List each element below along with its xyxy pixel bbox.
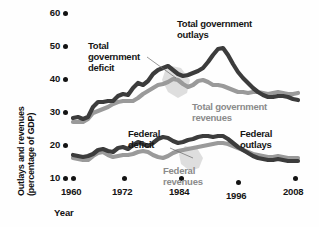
annotation-federal-revenues: Federal revenues	[163, 165, 203, 187]
annotation-total-government-deficit: Total government deficit	[88, 40, 140, 73]
annotation-total-government-revenues: Total government revenues	[192, 101, 267, 123]
y-tick-dot-10	[63, 176, 68, 181]
annotation-federal-outlays: Federal outlays	[240, 128, 272, 150]
x-tick-dot-2008	[293, 176, 298, 181]
x-tick-label-1996: 1996	[226, 190, 246, 201]
y-tick-dot-60	[63, 11, 68, 16]
annotation-federal-deficit-line-2: deficit	[128, 139, 160, 150]
y-tick-label-40: 40	[38, 73, 60, 84]
y-tick-label-60: 60	[38, 7, 60, 18]
annotation-federal-outlays-line-1: Federal	[240, 128, 272, 139]
x-tick-label-2008: 2008	[283, 186, 303, 197]
annotation-total-outlays-line-2: outlays	[177, 29, 252, 40]
x-tick-dot-1996	[236, 180, 241, 185]
annotation-total-revenues-line-1: Total government	[192, 101, 267, 112]
y-tick-dot-50	[63, 44, 68, 49]
y-tick-label-10: 10	[38, 172, 60, 183]
y-tick-dot-40	[63, 77, 68, 82]
annotation-total-deficit-line-2: government	[88, 51, 140, 62]
annotation-federal-deficit-line-1: Federal	[128, 128, 160, 139]
y-axis-title-line-1: Outlays and revenues	[16, 76, 27, 196]
annotation-total-revenues-line-2: revenues	[192, 112, 267, 123]
annotation-federal-outlays-line-2: outlays	[240, 139, 272, 150]
y-tick-label-20: 20	[38, 139, 60, 150]
x-tick-dot-1972	[122, 176, 127, 181]
x-tick-label-1972: 1972	[112, 186, 132, 197]
y-tick-label-50: 50	[38, 40, 60, 51]
chart-container: 60 50 40 30 20 10 1960 1972 1984 1996 20…	[0, 0, 319, 227]
x-tick-label-1984: 1984	[169, 186, 189, 197]
annotation-federal-deficit: Federal deficit	[128, 128, 160, 150]
annotation-total-deficit-line-3: deficit	[88, 62, 140, 73]
y-tick-dot-20	[63, 143, 68, 148]
annotation-total-government-outlays: Total government outlays	[177, 18, 252, 40]
x-axis-title: Year	[54, 207, 74, 218]
y-axis-title-line-2: (percentage of GDP)	[26, 76, 37, 196]
annotation-total-outlays-line-1: Total government	[177, 18, 252, 29]
annotation-federal-revenues-line-2: revenues	[163, 176, 203, 187]
y-axis-title: Outlays and revenues (percentage of GDP)	[14, 76, 38, 196]
annotation-federal-revenues-line-1: Federal	[163, 165, 203, 176]
annotation-total-deficit-line-1: Total	[88, 40, 140, 51]
y-tick-dot-30	[63, 110, 68, 115]
x-tick-label-1960: 1960	[61, 186, 81, 197]
x-tick-dot-1960	[71, 176, 76, 181]
y-tick-label-30: 30	[38, 106, 60, 117]
